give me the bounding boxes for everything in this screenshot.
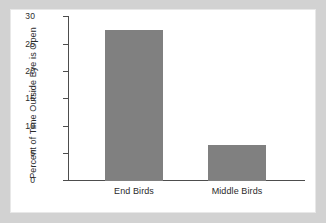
y-tick-label-5: 5 [0,149,35,158]
x-axis-line [68,180,305,181]
plot-area: Percent of Time Outside Eye is Open 30 2… [11,10,315,212]
y-tick-30 [63,16,68,17]
y-tick-label-20: 20 [0,67,35,76]
y-tick-label-15: 15 [0,94,35,103]
y-tick-label-30: 30 [0,12,35,21]
x-tick-label-middle-birds: Middle Birds [208,186,266,196]
y-tick-label-25: 25 [0,40,35,49]
chart-figure: Percent of Time Outside Eye is Open 30 2… [0,0,326,223]
y-tick-label-10: 10 [0,122,35,131]
y-tick-15 [63,98,68,99]
y-tick-0 [63,180,68,181]
plot-panel: Percent of Time Outside Eye is Open 30 2… [11,10,315,212]
y-tick-10 [63,126,68,127]
bar-middle-birds [208,145,266,181]
y-tick-25 [63,44,68,45]
y-tick-label-0: 0 [0,176,35,185]
y-tick-5 [63,153,68,154]
x-tick-label-end-birds: End Birds [105,186,163,196]
y-axis-line [68,16,69,181]
y-tick-20 [63,71,68,72]
bar-end-birds [105,30,163,180]
